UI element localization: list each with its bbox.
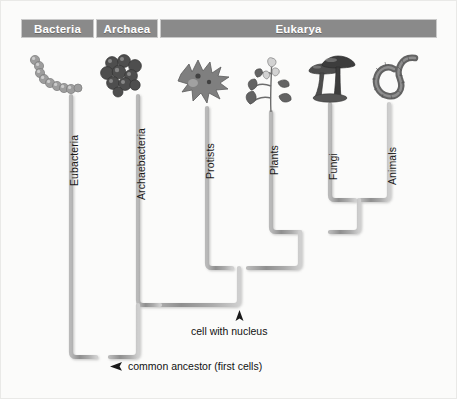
- annotation-common-ancestor: common ancestor (first cells): [128, 360, 262, 372]
- worm-icon: [368, 52, 426, 106]
- branch-label-eubacteria: Eubacteria: [68, 135, 80, 186]
- node-archaea-eukarya-stem: [110, 305, 138, 357]
- node-eukaryotes-stem: [150, 268, 239, 305]
- branch-label-animals: Animals: [386, 147, 398, 185]
- branch-fungi: [330, 104, 355, 200]
- archaea-cluster-icon: [98, 54, 150, 100]
- annotation-cell-with-nucleus: cell with nucleus: [191, 325, 267, 337]
- up-arrow-icon: [232, 310, 248, 322]
- branch-label-protists: Protists: [204, 143, 216, 179]
- branch-label-archaebacteria: Archaebacteria: [135, 128, 147, 200]
- bacteria-chain-icon: [26, 52, 88, 104]
- left-arrow-icon: [110, 361, 124, 372]
- branch-label-plants: Plants: [268, 145, 280, 175]
- branch-animals: [361, 104, 389, 200]
- mushroom-icon: [305, 52, 357, 104]
- branch-protists: [207, 108, 232, 268]
- node-fungi-animals-stem: [330, 200, 359, 232]
- plant-icon: [236, 52, 304, 114]
- branch-label-fungi: Fungi: [327, 153, 339, 180]
- node-plants-fa-stem: [248, 232, 300, 268]
- protist-icon: [176, 56, 234, 106]
